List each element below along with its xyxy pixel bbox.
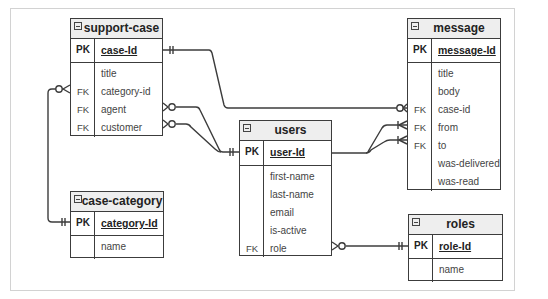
pk-label: PK bbox=[71, 39, 95, 61]
field-row[interactable]: name bbox=[409, 261, 502, 279]
field-name: agent bbox=[101, 101, 126, 119]
field-row[interactable]: was-read bbox=[408, 173, 500, 191]
field-row[interactable]: FKcase-id bbox=[408, 101, 500, 119]
field-name: name bbox=[101, 238, 126, 256]
field-row[interactable]: last-name bbox=[240, 186, 331, 204]
field-row[interactable]: FKcustomer bbox=[71, 119, 162, 137]
key-label: FK bbox=[408, 101, 432, 119]
field-row[interactable]: FKrole bbox=[240, 240, 331, 258]
key-label: FK bbox=[71, 119, 95, 137]
collapse-icon[interactable] bbox=[74, 22, 82, 30]
entity-header[interactable]: support-case bbox=[71, 19, 162, 39]
pk-field: role-Id bbox=[439, 235, 471, 257]
field-row[interactable]: FKcategory-id bbox=[71, 83, 162, 101]
field-name: name bbox=[439, 261, 464, 279]
collapse-icon[interactable] bbox=[243, 124, 251, 132]
pk-label: PK bbox=[240, 141, 264, 163]
field-row[interactable]: title bbox=[408, 65, 500, 83]
field-row[interactable]: FKagent bbox=[71, 101, 162, 119]
field-name: last-name bbox=[270, 186, 314, 204]
field-row[interactable]: email bbox=[240, 204, 331, 222]
entity-header[interactable]: users bbox=[240, 121, 331, 141]
collapse-icon[interactable] bbox=[411, 22, 419, 30]
pk-label: PK bbox=[71, 212, 95, 234]
key-label: FK bbox=[71, 83, 95, 101]
field-name: to bbox=[438, 137, 446, 155]
entity-title: support-case bbox=[74, 19, 159, 38]
field-name: is-active bbox=[270, 222, 307, 240]
field-name: was-delivered bbox=[438, 155, 500, 173]
entity-title: roles bbox=[436, 215, 475, 234]
field-name: category-id bbox=[101, 83, 150, 101]
key-label: FK bbox=[408, 137, 432, 155]
field-name: title bbox=[101, 65, 117, 83]
pk-label: PK bbox=[409, 235, 433, 257]
pk-field: case-Id bbox=[101, 39, 137, 61]
field-list: name bbox=[71, 236, 163, 259]
pk-field: message-Id bbox=[438, 39, 496, 61]
field-list: title body FKcase-id FKfrom FKto was-del… bbox=[408, 63, 500, 191]
entity-support-case[interactable]: support-case PK case-Id title FKcategory… bbox=[70, 18, 163, 136]
collapse-icon[interactable] bbox=[412, 218, 420, 226]
field-name: email bbox=[270, 204, 294, 222]
key-label: FK bbox=[71, 101, 95, 119]
pk-field: category-Id bbox=[101, 212, 158, 234]
entity-case-category[interactable]: case-category PK category-Id name bbox=[70, 191, 164, 258]
field-row[interactable]: FKfrom bbox=[408, 119, 500, 137]
field-name: was-read bbox=[438, 173, 479, 191]
field-name: case-id bbox=[438, 101, 470, 119]
field-name: body bbox=[438, 83, 460, 101]
field-name: first-name bbox=[270, 168, 314, 186]
entity-header[interactable]: case-category bbox=[71, 192, 163, 212]
entity-header[interactable]: roles bbox=[409, 215, 502, 235]
field-list: title FKcategory-id FKagent FKcustomer bbox=[71, 63, 162, 137]
field-row[interactable]: body bbox=[408, 83, 500, 101]
field-name: role bbox=[270, 240, 287, 258]
primary-key-row[interactable]: PK case-Id bbox=[71, 39, 162, 63]
field-row[interactable]: was-delivered bbox=[408, 155, 500, 173]
primary-key-row[interactable]: PK category-Id bbox=[71, 212, 163, 236]
field-name: from bbox=[438, 119, 458, 137]
field-row[interactable]: FKto bbox=[408, 137, 500, 155]
primary-key-row[interactable]: PK user-Id bbox=[240, 141, 331, 166]
field-list: first-name last-name email is-active FKr… bbox=[240, 166, 331, 257]
primary-key-row[interactable]: PK role-Id bbox=[409, 235, 502, 259]
entity-title: users bbox=[264, 121, 306, 140]
field-row[interactable]: title bbox=[71, 65, 162, 83]
entity-title: case-category bbox=[72, 192, 163, 211]
entity-title: message bbox=[423, 19, 484, 38]
field-name: title bbox=[438, 65, 454, 83]
entity-roles[interactable]: roles PK role-Id name bbox=[408, 214, 503, 281]
entity-message[interactable]: message PK message-Id title body FKcase-… bbox=[407, 18, 501, 190]
key-label: FK bbox=[408, 119, 432, 137]
primary-key-row[interactable]: PK message-Id bbox=[408, 39, 500, 63]
field-name: customer bbox=[101, 119, 142, 137]
field-list: name bbox=[409, 259, 502, 282]
collapse-icon[interactable] bbox=[74, 195, 82, 203]
entity-users[interactable]: users PK user-Id first-name last-name em… bbox=[239, 120, 332, 256]
field-row[interactable]: name bbox=[71, 238, 163, 256]
entity-header[interactable]: message bbox=[408, 19, 500, 39]
field-row[interactable]: is-active bbox=[240, 222, 331, 240]
key-label: FK bbox=[240, 240, 264, 258]
pk-label: PK bbox=[408, 39, 432, 61]
field-row[interactable]: first-name bbox=[240, 168, 331, 186]
pk-field: user-Id bbox=[270, 141, 305, 163]
